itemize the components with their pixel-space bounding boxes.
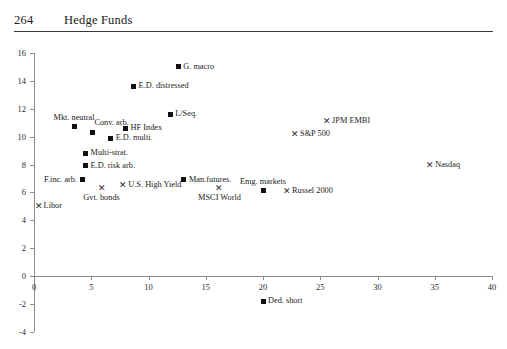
y-axis-tick-label: 4: [0, 215, 26, 225]
y-axis-tick: [30, 304, 34, 305]
square-marker-icon: [80, 177, 85, 182]
data-point-label: L/Seq.: [175, 109, 197, 118]
cross-marker-icon: ✕: [426, 161, 434, 169]
y-axis-tick-label: 16: [0, 48, 26, 58]
data-point-label: Man.futures.: [189, 175, 231, 184]
data-point-label: Multi-strat.: [91, 148, 129, 157]
data-point-label: Russel 2000: [292, 186, 333, 195]
x-axis-tick-label: 35: [423, 282, 447, 292]
y-axis-tick: [30, 53, 34, 54]
data-point-label: Ded. short: [268, 296, 303, 305]
x-axis-tick: [435, 276, 436, 280]
data-point-label: F.inc. arb.: [44, 175, 77, 184]
cross-marker-icon: ✕: [35, 202, 43, 210]
y-axis-tick: [30, 220, 34, 221]
square-marker-icon: [261, 188, 266, 193]
data-point-label: Gvt. bonds: [83, 193, 119, 202]
y-axis-tick: [30, 137, 34, 138]
square-marker-icon: [83, 163, 88, 168]
data-point-label: E.D. distressed: [139, 81, 189, 90]
data-point-label: Emg. markets: [240, 177, 286, 186]
data-point-label: U.S. High Yield: [128, 180, 181, 189]
cross-marker-icon: ✕: [291, 130, 299, 138]
data-point-label: E.D. risk arb.: [91, 161, 135, 170]
y-axis-tick: [30, 192, 34, 193]
data-point-label: Nasdaq: [435, 160, 460, 169]
x-axis-tick-label: 10: [137, 282, 161, 292]
scatter-chart: -4-202468101214160510152025303540G. macr…: [0, 32, 507, 349]
y-axis-tick-label: 12: [0, 104, 26, 114]
data-point-label: G. macro: [183, 62, 214, 71]
square-marker-icon: [83, 151, 88, 156]
y-axis-tick-label: 0: [0, 271, 26, 281]
cross-marker-icon: ✕: [119, 181, 127, 189]
data-point-label: E.D. multi.: [116, 133, 153, 142]
square-marker-icon: [261, 299, 266, 304]
y-axis-tick: [30, 332, 34, 333]
data-point-label: S&P 500: [300, 129, 330, 138]
data-point-label: JPM EMBI: [332, 116, 370, 125]
y-axis-tick-label: 6: [0, 187, 26, 197]
square-marker-icon: [123, 126, 128, 131]
x-axis-tick: [320, 276, 321, 280]
x-axis-tick: [149, 276, 150, 280]
y-axis-tick-label: 2: [0, 243, 26, 253]
x-axis-tick-label: 25: [308, 282, 332, 292]
running-head-title: Hedge Funds: [64, 13, 133, 28]
x-axis-tick-label: 15: [194, 282, 218, 292]
cross-marker-icon: ✕: [283, 187, 291, 195]
data-point-label: HF Index: [131, 123, 163, 132]
x-axis-tick: [263, 276, 264, 280]
x-axis-tick: [492, 276, 493, 280]
data-point-label: Libor: [44, 201, 62, 210]
x-axis-tick: [378, 276, 379, 280]
y-axis-tick: [30, 248, 34, 249]
square-marker-icon: [181, 177, 186, 182]
x-axis-tick: [34, 276, 35, 280]
x-axis-tick: [91, 276, 92, 280]
x-axis-tick-label: 0: [22, 282, 46, 292]
y-axis-tick-label: 10: [0, 132, 26, 142]
square-marker-icon: [131, 84, 136, 89]
cross-marker-icon: ✕: [98, 184, 106, 192]
y-axis-tick-label: 14: [0, 76, 26, 86]
y-axis-tick-label: -4: [0, 327, 26, 337]
square-marker-icon: [176, 64, 181, 69]
y-axis-tick: [30, 109, 34, 110]
cross-marker-icon: ✕: [323, 117, 331, 125]
x-axis-tick-label: 5: [79, 282, 103, 292]
square-marker-icon: [72, 124, 77, 129]
square-marker-icon: [168, 112, 173, 117]
y-axis-tick: [30, 81, 34, 82]
y-axis-tick: [30, 165, 34, 166]
data-point-label: Mkt. neutral: [54, 113, 95, 122]
page-number: 264: [14, 13, 33, 28]
data-point-label: MSCI World: [198, 193, 241, 202]
x-axis-tick-label: 20: [251, 282, 275, 292]
plot-area: -4-202468101214160510152025303540G. macr…: [0, 32, 507, 349]
y-axis-tick-label: -2: [0, 299, 26, 309]
x-axis-tick-label: 40: [480, 282, 504, 292]
cross-marker-icon: ✕: [215, 184, 223, 192]
square-marker-icon: [108, 136, 113, 141]
square-marker-icon: [90, 130, 95, 135]
x-axis-tick-label: 30: [366, 282, 390, 292]
y-axis-tick-label: 8: [0, 160, 26, 170]
page-header: 264 Hedge Funds: [0, 0, 507, 32]
x-axis-tick: [206, 276, 207, 280]
